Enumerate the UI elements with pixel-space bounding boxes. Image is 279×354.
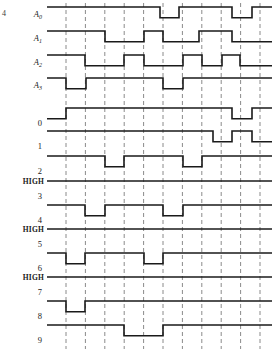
row-label-6: 6 xyxy=(38,263,42,273)
row-label-0: 0 xyxy=(38,118,42,128)
row-label-2: 2 xyxy=(38,166,42,176)
timing-diagram-canvas: A0A1A2A30123HIGH45HIGH67HIGH89 4 xyxy=(0,0,279,354)
row-label-9: 9 xyxy=(38,335,42,345)
high-label-5: HIGH xyxy=(23,225,44,234)
high-label-3: HIGH xyxy=(23,177,44,186)
timing-diagram-figure: A0A1A2A30123HIGH45HIGH67HIGH89 4 xyxy=(0,0,279,354)
row-label-1: 1 xyxy=(38,141,42,151)
high-label-7: HIGH xyxy=(23,273,44,282)
row-label-8: 8 xyxy=(38,311,42,321)
row-label-7: 7 xyxy=(38,287,42,297)
row-label-3: 3 xyxy=(38,191,42,201)
figure-corner-mark: 4 xyxy=(2,9,6,18)
row-label-5: 5 xyxy=(38,239,42,249)
